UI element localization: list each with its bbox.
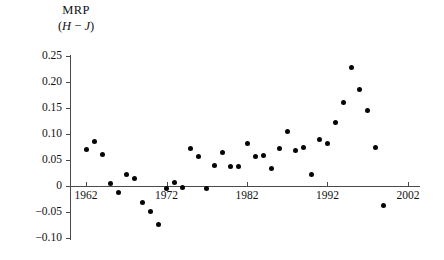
- x-axis-tick-label: 1982: [222, 189, 272, 201]
- data-point: [293, 148, 298, 153]
- data-point: [124, 172, 129, 177]
- data-point: [148, 209, 153, 214]
- data-point: [261, 153, 266, 158]
- data-point: [84, 147, 89, 152]
- data-point: [220, 150, 225, 155]
- data-point: [253, 154, 258, 159]
- y-axis-tick: [66, 238, 71, 239]
- y-axis-tick-label: 0.10: [22, 128, 62, 140]
- data-point: [245, 141, 250, 146]
- y-axis-tick-label-wrap: 0.20: [18, 76, 62, 88]
- data-point: [100, 152, 105, 157]
- x-axis-tick-label: 2002: [383, 189, 433, 201]
- data-point: [349, 65, 354, 70]
- y-axis-tick-label: −0.10: [22, 232, 62, 244]
- data-point: [196, 154, 201, 159]
- x-axis-tick: [86, 182, 87, 187]
- y-axis-tick-label-wrap: 0.05: [18, 154, 62, 166]
- y-axis-tick-label: 0.15: [22, 102, 62, 114]
- y-axis-tick-label-wrap: 0.10: [18, 128, 62, 140]
- y-axis-tick-label-wrap: 0.15: [18, 102, 62, 114]
- y-axis-tick-label-wrap: −0.05: [18, 206, 62, 218]
- x-axis-tick: [327, 182, 328, 187]
- y-axis-tick-label: −0.05: [22, 206, 62, 218]
- y-axis-tick: [66, 212, 71, 213]
- data-point: [188, 146, 193, 151]
- data-point: [228, 164, 233, 169]
- y-axis-tick: [66, 186, 71, 187]
- y-axis-tick-label: 0.05: [22, 154, 62, 166]
- data-point: [132, 176, 137, 181]
- data-point: [357, 87, 362, 92]
- x-axis-tick: [247, 182, 248, 187]
- data-point: [325, 141, 330, 146]
- data-point: [277, 146, 282, 151]
- y-axis-tick-label-wrap: 0.25: [18, 50, 62, 62]
- y-axis-tick: [66, 108, 71, 109]
- y-axis-tick-label: 0.20: [22, 76, 62, 88]
- data-point: [317, 137, 322, 142]
- y-axis-tick: [66, 56, 71, 57]
- chart-page: MRP (H − J) 0.250.200.150.100.050−0.05−0…: [0, 0, 444, 260]
- data-point: [333, 120, 338, 125]
- data-point: [204, 186, 209, 191]
- y-axis-tick-label-wrap: 0: [18, 180, 62, 192]
- data-point: [341, 100, 346, 105]
- y-axis-tick-label: 0.25: [22, 50, 62, 62]
- data-point: [108, 181, 113, 186]
- x-axis-tick-label: 1992: [302, 189, 352, 201]
- x-axis-tick: [408, 182, 409, 187]
- data-point: [285, 129, 290, 134]
- data-point: [381, 203, 386, 208]
- x-axis-line: [70, 186, 420, 187]
- x-axis-tick-label: 1962: [61, 189, 111, 201]
- data-point: [156, 222, 161, 227]
- data-point: [116, 190, 121, 195]
- y-axis-tick: [66, 82, 71, 83]
- y-axis-tick-label: 0: [22, 180, 62, 192]
- data-point: [172, 180, 177, 185]
- y-axis-tick: [66, 134, 71, 135]
- data-point: [140, 200, 145, 205]
- data-point: [212, 163, 217, 168]
- data-point: [92, 139, 97, 144]
- y-axis-tick: [66, 160, 71, 161]
- data-point: [236, 164, 241, 169]
- data-point: [301, 145, 306, 150]
- scatter-plot-area: 0.250.200.150.100.050−0.05−0.10 19621972…: [0, 0, 444, 260]
- data-point: [373, 145, 378, 150]
- y-axis-tick-label-wrap: −0.10: [18, 232, 62, 244]
- data-point: [365, 108, 370, 113]
- data-point: [269, 166, 274, 171]
- data-point: [309, 172, 314, 177]
